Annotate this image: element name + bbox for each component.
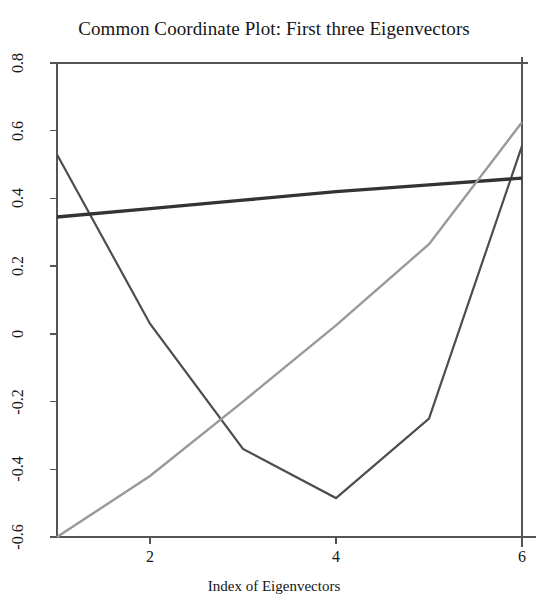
y-tick-label-2: 0.4 [9,181,25,215]
x-tick-label-2: 6 [502,548,542,566]
series-line-eigenvector-1 [57,146,522,498]
y-tick-label-3: 0.2 [9,249,25,283]
y-tick-label-0: 0.8 [9,46,25,80]
x-axis-label: Index of Eigenvectors [0,578,548,595]
y-tick-label-1: 0.6 [9,114,25,148]
x-tick-label-0: 2 [130,548,170,566]
chart-figure: Common Coordinate Plot: First three Eige… [0,0,548,612]
axis-lines [51,57,536,547]
series-lines [57,122,522,537]
y-tick-label-7: -0.6 [9,520,25,554]
y-tick-label-4: 0 [9,317,25,351]
y-tick-label-5: -0.2 [9,385,25,419]
x-tick-label-1: 4 [316,548,356,566]
series-line-eigenvector-2 [57,178,522,217]
y-tick-label-6: -0.4 [9,452,25,486]
plot-canvas [0,0,548,612]
